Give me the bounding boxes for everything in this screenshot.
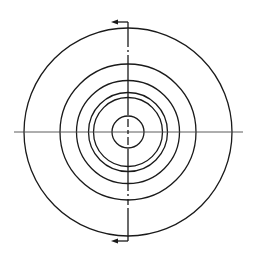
bottom-arrow-head-icon — [111, 239, 118, 244]
top-arrow-head-icon — [111, 20, 118, 25]
technical-drawing — [0, 0, 253, 259]
drawing-svg — [0, 0, 253, 259]
